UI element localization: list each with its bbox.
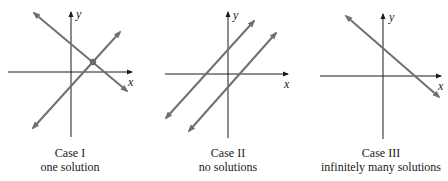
y-axis-label: y	[388, 10, 395, 24]
x-axis-label: x	[437, 79, 444, 93]
x-axis-label: x	[127, 75, 134, 89]
intersection-point	[90, 59, 96, 65]
line-descending	[34, 13, 127, 91]
parallel-line-upper	[166, 21, 254, 118]
case-3-graph: x y	[320, 10, 444, 139]
case-1-title: Case I	[10, 146, 130, 160]
y-axis-label: y	[75, 7, 82, 21]
case-2-title: Case II	[168, 146, 288, 160]
case-3-title: Case III	[313, 146, 448, 160]
case-2-subtitle: no solutions	[168, 160, 288, 174]
case-1-subtitle: one solution	[10, 160, 130, 174]
case-2-caption: Case II no solutions	[168, 146, 288, 174]
case-2-graph: x y	[165, 8, 290, 138]
case-3-subtitle: infinitely many solutions	[313, 160, 448, 174]
case-3-caption: Case III infinitely many solutions	[313, 146, 448, 174]
line-ascending	[33, 32, 120, 128]
case-1-graph: x y	[8, 7, 134, 137]
x-axis-label: x	[283, 77, 290, 91]
parallel-line-lower	[189, 33, 276, 131]
coincident-line	[346, 16, 439, 97]
case-1-caption: Case I one solution	[10, 146, 130, 174]
y-axis-label: y	[232, 8, 239, 22]
